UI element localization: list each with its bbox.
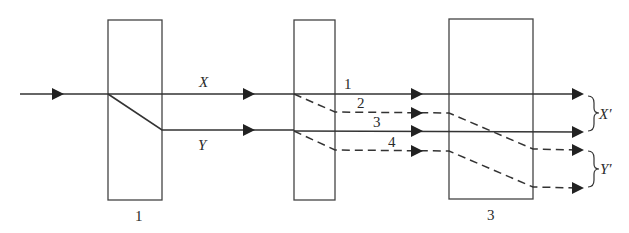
- component-3-label: 3: [487, 207, 495, 223]
- component-1-box: [108, 20, 162, 200]
- ray-3-arrow-icon: [411, 125, 423, 137]
- component-3-box: [449, 19, 533, 199]
- ray-1-arrow-icon: [411, 88, 423, 100]
- output-rays: [294, 94, 580, 188]
- ray-3: [294, 131, 580, 132]
- ray-3-end-arrow-icon: [572, 126, 584, 138]
- input-arrow-icon: [52, 88, 64, 100]
- component-2-box: [294, 20, 335, 200]
- beam-label-x: X: [198, 74, 209, 90]
- ray-2-arrow-icon: [411, 107, 423, 119]
- ray-2-end-arrow-icon: [572, 144, 584, 156]
- ray-4-end-arrow-icon: [572, 182, 584, 194]
- x-arrow-icon: [243, 88, 255, 100]
- ray-label-2: 2: [357, 95, 365, 111]
- ray-1-end-arrow-icon: [572, 88, 584, 100]
- beam-label-y: Y: [198, 137, 208, 153]
- output-label-x-prime: X′: [598, 106, 612, 122]
- ray-4: [294, 131, 580, 188]
- component-1-label: 1: [135, 208, 143, 224]
- ray-label-1: 1: [344, 76, 352, 92]
- ray-4-arrow-icon: [411, 145, 423, 157]
- ray-label-4: 4: [388, 134, 396, 150]
- y-prime-brace-icon: [588, 151, 599, 187]
- xy-beams: [108, 94, 294, 130]
- y-arrow-icon: [243, 124, 255, 136]
- ray-label-3: 3: [373, 114, 381, 130]
- ray-2: [294, 94, 580, 150]
- output-label-y-prime: Y′: [600, 161, 612, 177]
- x-prime-brace-icon: [588, 96, 599, 131]
- beam-splitter-diagram: X Y 1 2 3 4 X′ Y′ 1 3: [0, 0, 629, 233]
